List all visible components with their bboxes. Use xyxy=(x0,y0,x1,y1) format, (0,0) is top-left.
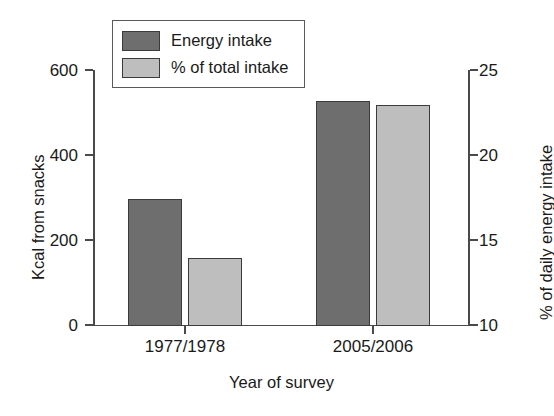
right-axis-tick-label: 15 xyxy=(479,232,498,249)
left-axis-tick xyxy=(85,239,93,241)
right-axis-tick-label: 10 xyxy=(479,317,498,334)
right-axis-tick-label: 20 xyxy=(479,147,498,164)
left-axis-title: Kcal from snacks xyxy=(30,154,47,280)
plot-area xyxy=(93,70,469,326)
x-axis-tick-label: 2005/2006 xyxy=(333,338,413,355)
bar xyxy=(128,199,182,327)
legend-swatch-icon xyxy=(122,31,160,51)
legend: Energy intake % of total intake xyxy=(112,20,305,88)
legend-item-percent-of-total-intake: % of total intake xyxy=(122,54,304,81)
right-axis-tick-label: 25 xyxy=(479,62,498,79)
legend-item-label: Energy intake xyxy=(171,32,272,49)
right-axis-tick xyxy=(470,324,478,326)
right-axis-tick xyxy=(470,239,478,241)
bar-chart-figure: 0200400600 10152025 1977/19782005/2006 K… xyxy=(0,0,554,416)
bar xyxy=(188,258,242,326)
x-axis-tick xyxy=(184,326,186,334)
bar xyxy=(376,105,430,326)
left-axis-tick-label: 0 xyxy=(0,317,78,334)
left-axis-tick xyxy=(85,324,93,326)
right-axis-title: % of daily energy intake xyxy=(538,145,554,320)
legend-item-label: % of total intake xyxy=(171,59,288,76)
right-axis-tick xyxy=(470,154,478,156)
x-axis-title: Year of survey xyxy=(93,374,470,391)
bar xyxy=(316,101,370,326)
right-axis-tick xyxy=(470,69,478,71)
x-axis-tick-label: 1977/1978 xyxy=(145,338,225,355)
left-axis-tick-label: 600 xyxy=(0,62,78,79)
left-axis-tick xyxy=(85,154,93,156)
left-axis-tick xyxy=(85,69,93,71)
x-axis-tick xyxy=(372,326,374,334)
legend-swatch-icon xyxy=(122,58,160,78)
legend-item-energy-intake: Energy intake xyxy=(122,27,304,54)
